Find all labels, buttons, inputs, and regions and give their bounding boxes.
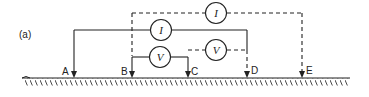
electrode-label-b: B bbox=[121, 66, 128, 77]
electrode-label-d: D bbox=[251, 65, 258, 76]
electrode-label-a: A bbox=[62, 66, 69, 77]
arrow-d-icon bbox=[244, 71, 250, 78]
arrow-e-icon bbox=[299, 71, 305, 78]
electrode-arrowheads bbox=[71, 71, 305, 78]
panel-label: (a) bbox=[19, 29, 31, 40]
ground-surface bbox=[22, 77, 350, 86]
electrode-label-e: E bbox=[306, 65, 313, 76]
electrode-array-diagram: (a) bbox=[0, 0, 369, 97]
meter-voltage-solid: V bbox=[150, 47, 171, 68]
meter-current-solid: I bbox=[151, 20, 172, 41]
arrow-a-icon bbox=[71, 71, 77, 78]
electrode-label-c: C bbox=[191, 66, 198, 77]
ground-hatching bbox=[24, 79, 350, 86]
meter-voltage-dashed: V bbox=[206, 40, 227, 61]
diagram-svg: (a) bbox=[0, 0, 369, 97]
meter-current-dashed: I bbox=[206, 3, 227, 24]
arrow-b-icon bbox=[129, 71, 135, 78]
